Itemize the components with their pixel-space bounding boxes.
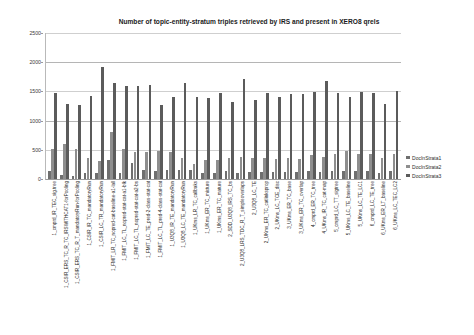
x-axis-tick-label: 1_CSIR_IR_TC_mandatoryRun [87,181,92,246]
y-axis-tick-mark [41,150,43,151]
bar-docinstrata3[interactable] [160,105,163,179]
legend-label: DocInStrata3 [412,173,441,179]
x-axis-label-slot: 6_cmprd_LC_TE_tree [364,181,376,311]
bar-docinstrata3[interactable] [266,93,269,179]
bar-docinstrata3[interactable] [196,97,199,179]
bar-docinstrata3[interactable] [384,104,387,179]
bar-group [153,33,165,179]
y-axis: 05001000150020002500 [14,28,43,186]
x-axis-tick-label: 5_UKms_LC_TE_LC1 [358,181,363,226]
bar-docinstrata3[interactable] [372,93,375,179]
legend-swatch-icon [406,156,410,160]
bar-docinstrata3[interactable] [313,92,316,179]
x-axis-label-slot: 4_UKms_IR_TC_cat-map [317,181,329,311]
x-axis-label-slot: 5_cmprd_LC_TT_sigtree [328,181,340,311]
x-axis-tick-label: 1_CSIR_ERS_TC_R_T_mandatoryRun-forPoolin… [75,181,80,284]
chart-title: Number of topic-entity-stratum triples r… [54,18,444,26]
bar-docinstrata3[interactable] [231,102,234,179]
bar-docinstrata3[interactable] [325,81,328,179]
x-axis-label-slot: 5_UKms_LC_TE_baseline [340,181,352,311]
bar-docinstrata3[interactable] [337,93,340,179]
legend-item[interactable]: DocInStrata3 [406,171,472,180]
bar-docinstrata3[interactable] [219,93,222,179]
x-axis-label-slot: 2_U3Q8_LC_TE [246,181,258,311]
bar-group [341,33,353,179]
legend-item[interactable]: DocInStrata1 [406,153,472,162]
bar-group [59,33,71,179]
bar-group [271,33,283,179]
bar-docinstrata3[interactable] [278,97,281,179]
legend-label: DocInStrata1 [412,155,441,161]
bar-docinstrata3[interactable] [54,93,57,179]
x-axis-tick-label: 1_cmprd_IR_TEC_sig.tree [52,181,57,235]
bar-group [318,33,330,179]
x-axis-label-slot: 1_UKms_ER_TC_mixture [199,181,211,311]
y-axis-tick-mark [41,179,43,180]
x-axis-tick-label: 6_UKms_LC_TEC_LC2 [393,181,398,230]
x-axis-label-slot: 1_CSIR_ERS_TC_R_T_mandatoryRun-forPoolin… [70,181,82,311]
x-axis-tick-label: 5_UKms_LC_TE_baseline [346,181,351,235]
x-axis-tick-label: 1_U3Q8_LC_TE_mandatoryRun [181,181,186,248]
y-axis-tick-label: 2000 [29,59,41,65]
bar-group [259,33,271,179]
bar-docinstrata3[interactable] [125,86,128,179]
bar-docinstrata3[interactable] [396,91,399,179]
bar-group [294,33,306,179]
x-axis-tick-label: 1_UKms_LR_TC_callbaks [193,181,198,235]
x-axis-tick-label: 6_UKms_ER_LT_baseline [381,181,386,235]
bar-docinstrata3[interactable] [149,85,152,179]
x-axis-label-slot: 1_FMIT_LC_TL_pred-4-class-stat-cat [152,181,164,311]
x-axis-label-slot: 1_U3Q8_IR_TE_mandatoryRun [164,181,176,311]
bar-group [247,33,259,179]
x-axis-tick-label: 2_UKms_ER_TC_catlinksprop [264,181,269,243]
x-axis-label-slot: 1_FMIT_LR_TC_nopred-cat-baseline-a1-lall [105,181,117,311]
x-axis-tick-label: 1_FMIT_LR_TC_nopred-cat-baseline-a1-lall [111,181,116,271]
bar-docinstrata3[interactable] [349,97,352,179]
bar-docinstrata3[interactable] [172,97,175,179]
bar-group [165,33,177,179]
bar-docinstrata3[interactable] [290,94,293,179]
y-axis-tick-mark [41,121,43,122]
y-axis-tick-mark [41,91,43,92]
bar-docinstrata3[interactable] [243,79,246,179]
bar-group [47,33,59,179]
bar-group [388,33,400,179]
x-axis-tick-label: 4_UKms_IR_TC_cat-map [322,181,327,234]
bar-docinstrata3[interactable] [360,92,363,179]
x-axis-label-slot: 6_UKms_LC_TEC_LC2 [387,181,399,311]
bar-docinstrata3[interactable] [137,86,140,179]
x-axis-tick-label: 1_FMIT_LC_TL_nopred-stat-cat-a2-bs [134,181,139,260]
x-axis-label-slot: 1_cmprd_IR_TEC_sig.tree [46,181,58,311]
x-axis-tick-label: 1_UKms_ER_TC_mixture [205,181,210,234]
bar-group [106,33,118,179]
legend-swatch-icon [406,174,410,178]
x-axis-tick-label: 1_UKms_ER_TC_mature [217,181,222,233]
bar-series-container [46,33,401,179]
x-axis-tick-label: 1_FMIT_LC_TL_nopred-stat-cat-a1-blk [122,181,127,261]
x-axis-label-slot: 2_SDD_U3Q8_IRS_TC_bs [222,181,234,311]
bar-docinstrata3[interactable] [207,98,210,179]
y-axis-tick-label: 500 [32,147,41,153]
bar-docinstrata3[interactable] [101,67,104,179]
bar-docinstrata3[interactable] [254,100,257,179]
bar-group [212,33,224,179]
bar-group [71,33,83,179]
x-axis-label-slot: 3_UKms_ER_TC_base [281,181,293,311]
bar-group [376,33,388,179]
legend-swatch-icon [406,165,410,169]
x-axis-tick-label: 2_UKms_LC_TCE_disc [275,181,280,230]
bar-docinstrata3[interactable] [113,83,116,179]
bar-docinstrata3[interactable] [90,96,93,179]
bar-docinstrata3[interactable] [78,105,81,179]
bar-group [176,33,188,179]
bar-docinstrata3[interactable] [66,104,69,179]
y-axis-tick-label: 1500 [29,88,41,94]
x-axis-label-slot: 1_FMIT_LC_TE_pred-2-class-stat-cat [140,181,152,311]
x-axis-tick-label: 2_SDD_U3Q8_IRS_TC_bs [228,181,233,237]
x-axis-label-slot: 6_UKms_ER_LT_baseline [375,181,387,311]
bar-docinstrata3[interactable] [302,94,305,179]
bar-docinstrata3[interactable] [184,83,187,179]
legend-item[interactable]: DocInStrata2 [406,162,472,171]
x-axis-label-slot: 1_UKms_ER_TC_mature [211,181,223,311]
x-axis-label-slot: 1_CSIR_IR_TC_mandatoryRun [81,181,93,311]
